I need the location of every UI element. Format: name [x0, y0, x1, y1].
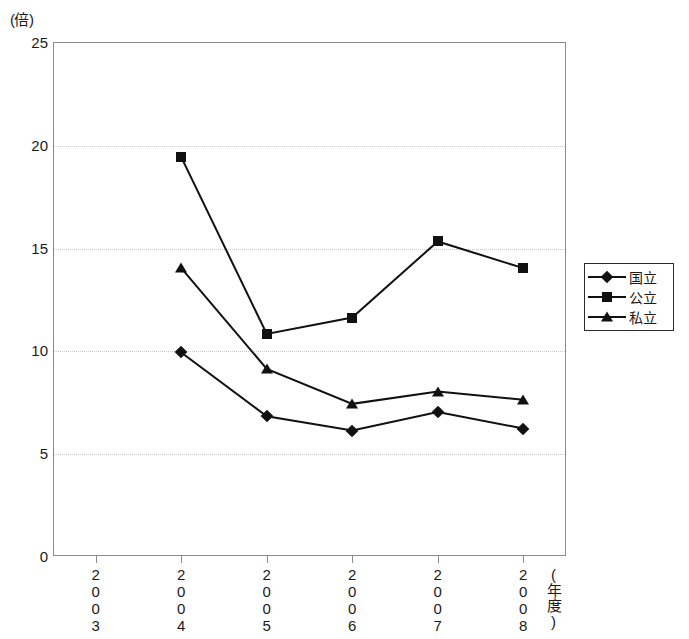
x-axis-tick-label: 2005 — [259, 566, 274, 634]
data-point-公立-2004 — [181, 157, 191, 167]
x-axis-tick-mark — [267, 556, 268, 563]
data-point-私立-2004 — [181, 268, 193, 278]
x-axis-tick-label: 2004 — [174, 566, 189, 634]
data-point-公立-2007 — [438, 241, 448, 251]
x-axis-tick-mark — [181, 556, 182, 563]
diamond-marker-icon — [601, 271, 614, 284]
legend-swatch-triangle — [588, 310, 626, 324]
x-axis-tick-label: 2007 — [430, 566, 445, 634]
x-axis-tick-label: 2006 — [345, 566, 360, 634]
square-marker-icon — [518, 263, 528, 273]
plot-area — [53, 42, 566, 556]
y-axis-tick-label: 25 — [6, 34, 48, 51]
legend-label: 私立 — [629, 307, 656, 327]
legend-marker-wrap — [607, 317, 619, 327]
data-point-公立-2008 — [523, 268, 533, 278]
data-point-国立-2005 — [267, 416, 276, 425]
legend-label: 公立 — [629, 287, 656, 307]
data-point-国立-2004 — [181, 352, 190, 361]
x-axis-tick-label: 2008 — [516, 566, 531, 634]
y-axis-tick-label: 15 — [6, 239, 48, 256]
triangle-marker-icon — [175, 263, 187, 273]
y-axis-tick-label: 0 — [6, 548, 48, 565]
x-axis-tick-mark — [96, 556, 97, 563]
data-point-私立-2008 — [523, 400, 535, 410]
data-point-公立-2005 — [267, 334, 277, 344]
gridline — [54, 454, 565, 455]
legend: 国立公立私立 — [584, 263, 674, 331]
y-axis-tick-label: 10 — [6, 342, 48, 359]
legend-swatch-square — [588, 290, 626, 304]
square-marker-icon — [602, 292, 612, 302]
legend-item-私立[interactable]: 私立 — [588, 307, 670, 327]
data-point-公立-2006 — [352, 318, 362, 328]
data-point-私立-2005 — [267, 369, 279, 379]
triangle-marker-icon — [432, 386, 444, 396]
legend-item-国立[interactable]: 国立 — [588, 267, 670, 287]
data-point-国立-2007 — [438, 412, 447, 421]
x-axis-tick-label: 2003 — [88, 566, 103, 634]
x-axis-title: (年度) — [546, 566, 561, 630]
square-marker-icon — [433, 236, 443, 246]
gridline — [54, 351, 565, 352]
x-axis-tick-mark — [352, 556, 353, 563]
triangle-marker-icon — [346, 398, 358, 408]
data-point-私立-2006 — [352, 404, 364, 414]
y-axis-tick-labels: 0510152025 — [0, 0, 48, 639]
triangle-marker-icon — [517, 394, 529, 404]
triangle-marker-icon — [261, 363, 273, 373]
legend-marker-wrap — [607, 277, 616, 286]
gridline — [54, 146, 565, 147]
square-marker-icon — [176, 152, 186, 162]
legend-swatch-diamond — [588, 270, 626, 284]
triangle-marker-icon — [601, 312, 613, 322]
x-axis-tick-mark — [438, 556, 439, 563]
square-marker-icon — [262, 329, 272, 339]
y-axis-tick-label: 5 — [6, 445, 48, 462]
data-point-私立-2007 — [438, 392, 450, 402]
legend-item-公立[interactable]: 公立 — [588, 287, 670, 307]
square-marker-icon — [347, 313, 357, 323]
legend-label: 国立 — [629, 267, 656, 287]
gridline — [54, 249, 565, 250]
data-point-国立-2006 — [352, 431, 361, 440]
y-axis-tick-label: 20 — [6, 136, 48, 153]
data-point-国立-2008 — [523, 429, 532, 438]
legend-marker-wrap — [607, 297, 617, 307]
line-chart: (倍) 0510152025 200320042005200620072008 … — [0, 0, 689, 639]
x-axis-tick-mark — [523, 556, 524, 563]
